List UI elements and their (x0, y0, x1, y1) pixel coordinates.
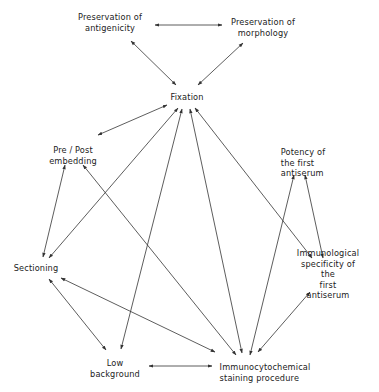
node-immunological-specificity: Immunological specificity of the first a… (297, 248, 359, 301)
node-potency-of-first-antiserum: Potency of the first antiserum (281, 147, 325, 179)
node-low-background: Low background (90, 358, 140, 379)
edge-fixation-prepost-arrow-icon (98, 105, 167, 135)
diagram-canvas: Preservation of antigenicity Preservatio… (0, 0, 379, 392)
node-fixation: Fixation (170, 92, 203, 103)
node-sectioning: Sectioning (14, 263, 59, 274)
edge-morphology-fixation-arrow-icon (198, 43, 243, 85)
edge-layer (0, 0, 379, 392)
edge-prepost-staining-arrow-icon (83, 165, 236, 355)
edge-fixation-lowbg-arrow-icon (121, 109, 182, 349)
edge-specificity-staining-arrow-icon (258, 292, 310, 352)
edge-sectioning-lowbg-arrow-icon (49, 279, 106, 350)
node-immunocytochemical-staining: Immunocytochemical staining procedure (220, 362, 311, 383)
node-pre-post-embedding: Pre / Post embedding (49, 145, 97, 166)
node-preservation-of-antigenicity: Preservation of antigenicity (78, 12, 142, 33)
edge-fixation-specificity-arrow-icon (195, 108, 312, 258)
edge-potency-staining-arrow-icon (250, 175, 294, 355)
edge-antigenicity-fixation-arrow-icon (131, 41, 176, 85)
edge-fixation-sectioning-arrow-icon (49, 108, 178, 258)
edge-fixation-staining-arrow-icon (190, 109, 242, 353)
node-preservation-of-morphology: Preservation of morphology (231, 17, 295, 38)
edge-potency-specificity-arrow-icon (305, 175, 323, 258)
edge-sectioning-staining-arrow-icon (61, 278, 215, 352)
